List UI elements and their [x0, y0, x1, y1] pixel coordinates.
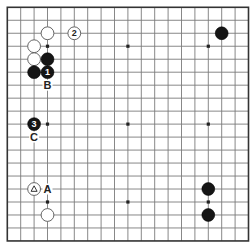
white-stone-disc — [28, 53, 41, 66]
black-stone-disc — [202, 183, 215, 196]
point-label-c: C — [29, 131, 39, 143]
go-board: 213 BCA — [0, 0, 252, 251]
point-label-b: B — [43, 79, 53, 91]
black-stone — [215, 27, 228, 40]
star-point — [46, 45, 49, 48]
white-stone — [41, 27, 54, 40]
star-point — [207, 45, 210, 48]
star-point — [207, 123, 210, 126]
black-stone — [28, 66, 41, 79]
star-point — [207, 200, 210, 203]
move-number: 1 — [45, 67, 50, 77]
white-stone-disc — [41, 27, 54, 40]
star-point — [46, 123, 49, 126]
white-stone: 2 — [68, 27, 81, 40]
black-stone-disc — [41, 53, 54, 66]
white-stone — [28, 183, 41, 196]
black-stone-disc — [202, 209, 215, 222]
black-stone-disc — [28, 66, 41, 79]
black-stone — [41, 53, 54, 66]
label-text: C — [30, 131, 38, 143]
black-stone — [202, 183, 215, 196]
white-stone — [28, 40, 41, 53]
white-stone-disc — [41, 209, 54, 222]
point-label-a: A — [43, 183, 53, 195]
star-point — [126, 45, 129, 48]
move-number: 3 — [32, 119, 37, 129]
star-point — [46, 200, 49, 203]
label-text: B — [44, 79, 52, 91]
white-stone — [28, 53, 41, 66]
black-stone-disc — [215, 27, 228, 40]
star-point — [126, 123, 129, 126]
black-stone: 3 — [28, 118, 41, 131]
black-stone: 1 — [41, 66, 54, 79]
white-stone-disc — [28, 40, 41, 53]
move-number: 2 — [72, 28, 77, 38]
white-stone-disc — [28, 183, 41, 196]
label-text: A — [44, 183, 52, 195]
black-stone — [202, 209, 215, 222]
white-stone — [41, 209, 54, 222]
star-point — [126, 200, 129, 203]
